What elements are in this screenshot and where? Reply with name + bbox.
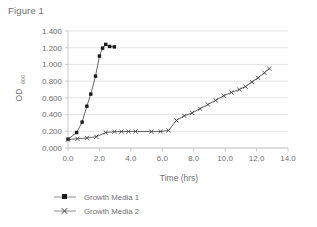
data-point-marker (101, 46, 104, 49)
series-1 (66, 43, 116, 141)
y-axis-tick-label: 0.000 (42, 144, 63, 153)
y-axis-tick-label: 0.200 (42, 127, 63, 136)
data-series-group (66, 43, 271, 142)
data-point-marker (75, 131, 78, 134)
y-axis-tick-label: 1.000 (42, 60, 63, 69)
data-point-marker (104, 43, 107, 46)
y-axis-tick-label: 0.800 (42, 77, 63, 86)
data-point-marker (94, 74, 97, 77)
legend-marker-cross-icon (52, 205, 78, 217)
x-axis-tick-label: 10.0 (217, 154, 233, 163)
y-axis-title-group: OD 600 (14, 75, 26, 102)
data-point-marker (80, 120, 83, 123)
chart-legend: Growth Media 1 Growth Media 2 (52, 190, 232, 218)
x-axis-tick-label: 14.0 (280, 154, 296, 163)
legend-item-growth-media-1: Growth Media 1 (52, 190, 232, 204)
y-axis-tick-labels: 0.0000.2000.4000.6000.8001.0001.2001.400 (42, 27, 63, 153)
series-line (68, 69, 269, 140)
x-axis-title: Time (hrs) (160, 173, 199, 183)
data-point-marker (108, 45, 111, 48)
x-axis-tick-labels: 0.02.04.06.08.010.012.014.0 (62, 154, 296, 163)
x-axis-tick-label: 12.0 (249, 154, 265, 163)
data-point-marker (98, 54, 101, 57)
y-axis-tick-label: 1.400 (42, 27, 63, 36)
x-axis-tick-label: 4.0 (125, 154, 137, 163)
data-point-marker (85, 105, 88, 108)
series-line (68, 44, 114, 139)
legend-item-growth-media-2: Growth Media 2 (52, 204, 232, 218)
data-point-marker (89, 92, 92, 95)
axes-group (65, 31, 288, 152)
figure-container: Figure 1 0.0000.2000.4000.6000.8001.0001… (0, 0, 317, 227)
x-axis-tick-label: 8.0 (188, 154, 200, 163)
y-axis-title-subscript: 600 (20, 75, 26, 84)
x-axis-tick-label: 2.0 (94, 154, 106, 163)
y-axis-tick-label: 1.200 (42, 44, 63, 53)
legend-label-growth-media-2: Growth Media 2 (78, 207, 139, 216)
x-axis-tick-label: 0.0 (62, 154, 74, 163)
y-axis-tick-label: 0.400 (42, 110, 63, 119)
legend-label-growth-media-1: Growth Media 1 (78, 193, 139, 202)
data-point-marker (113, 45, 116, 48)
x-axis-tick-label: 6.0 (157, 154, 169, 163)
y-axis-tick-label: 0.600 (42, 94, 63, 103)
legend-marker-square-icon (52, 191, 78, 203)
y-axis-title: OD (14, 89, 24, 102)
